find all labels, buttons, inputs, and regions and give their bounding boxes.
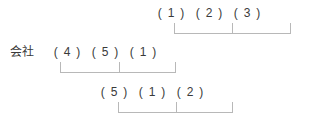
grouping-bracket-middle <box>60 62 176 73</box>
diagram-row-top: (1)(2)(3) <box>152 6 266 20</box>
bracket-midpoint-tick <box>176 102 177 112</box>
token-cell: (5) <box>95 85 133 99</box>
paren-close-icon: ) <box>218 6 222 20</box>
paren-close-icon: ) <box>180 6 184 20</box>
token-cell: (1) <box>133 85 171 99</box>
token-value: 2 <box>181 85 200 99</box>
paren-close-icon: ) <box>76 45 80 59</box>
token-value: 1 <box>134 45 153 59</box>
token-value: 2 <box>200 6 219 20</box>
token-value: 4 <box>58 45 77 59</box>
paren-close-icon: ) <box>123 85 127 99</box>
paren-close-icon: ) <box>114 45 118 59</box>
token-value: 5 <box>105 85 124 99</box>
diagram-row-bottom: (5)(1)(2) <box>95 85 209 99</box>
token-cell: (1) <box>152 6 190 20</box>
token-value: 5 <box>96 45 115 59</box>
paren-close-icon: ) <box>256 6 260 20</box>
token-cell: (3) <box>228 6 266 20</box>
cascade-diagram: (1)(2)(3) 会社(4)(5)(1) (5)(1)(2) <box>0 0 318 126</box>
diagram-row-middle: 会社(4)(5)(1) <box>10 45 162 59</box>
bracket-midpoint-tick <box>232 23 233 33</box>
paren-close-icon: ) <box>152 45 156 59</box>
grouping-bracket-top <box>174 23 291 34</box>
token-cell: (1) <box>124 45 162 59</box>
paren-close-icon: ) <box>199 85 203 99</box>
token-cell: (2) <box>171 85 209 99</box>
token-cell: (5) <box>86 45 124 59</box>
row-label: 会社 <box>10 45 40 59</box>
token-value: 1 <box>143 85 162 99</box>
token-value: 1 <box>162 6 181 20</box>
grouping-bracket-bottom <box>118 102 233 113</box>
token-value: 3 <box>238 6 257 20</box>
token-cell: (4) <box>48 45 86 59</box>
token-cell: (2) <box>190 6 228 20</box>
bracket-midpoint-tick <box>119 62 120 72</box>
paren-close-icon: ) <box>161 85 165 99</box>
